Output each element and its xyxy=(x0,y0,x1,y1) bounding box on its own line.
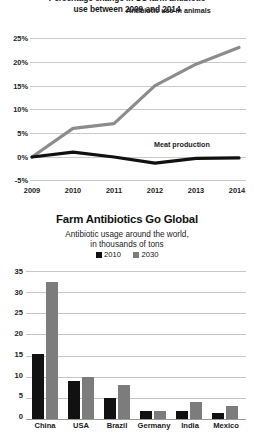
y-tick-0: 0% xyxy=(2,153,28,162)
bar-chart: Farm Antibiotics Go Global Antibiotic us… xyxy=(0,205,254,444)
bar-india-2030 xyxy=(190,402,202,419)
y-tick-5: 5% xyxy=(2,129,28,138)
bar-x-tick-mexico: Mexico xyxy=(213,421,239,430)
bar-y-tick-30: 30 xyxy=(2,288,23,297)
x-tick-2011: 2011 xyxy=(106,186,122,195)
bar-chart-subtitle: Antibiotic usage around the world, in th… xyxy=(0,230,254,250)
bar-chart-bar-groups xyxy=(26,271,246,419)
bar-chart-legend: 2010 2030 xyxy=(0,250,254,259)
x-tick-2014: 2014 xyxy=(229,186,245,195)
line-chart: Percentage change in US farm antibiotic … xyxy=(0,0,254,205)
bar-chart-baseline xyxy=(26,419,246,420)
bar-germany-2030 xyxy=(154,411,166,420)
x-tick-2012: 2012 xyxy=(147,186,163,195)
bar-x-tick-germany: Germany xyxy=(138,421,171,430)
bar-y-tick-10: 10 xyxy=(2,371,23,380)
legend-label-2010: 2010 xyxy=(104,250,121,259)
bar-y-tick-5: 5 xyxy=(2,391,23,400)
legend-swatch-2010 xyxy=(96,252,102,258)
y-tick-10: 10% xyxy=(2,105,28,114)
bar-chart-subtitle-line1: Antibiotic usage around the world, xyxy=(0,230,254,240)
bar-usa-2010 xyxy=(68,381,80,419)
bar-y-tick-20: 20 xyxy=(2,329,23,338)
legend-item-2030: 2030 xyxy=(133,250,158,259)
bar-mexico-2030 xyxy=(226,406,238,419)
legend-item-2010: 2010 xyxy=(96,250,121,259)
series-line-meat-production xyxy=(32,152,239,163)
series-label-meat-production: Meat production xyxy=(154,140,210,149)
bar-y-tick-0: 0 xyxy=(2,412,23,421)
line-chart-series-svg xyxy=(30,38,246,181)
y-tick-neg5: -5% xyxy=(2,176,28,185)
y-tick-15: 15% xyxy=(2,82,28,91)
series-label-antibiotic-use: Antibiotic use in animals xyxy=(126,6,211,15)
bar-x-tick-usa: USA xyxy=(73,421,89,430)
infographic-page: Percentage change in US farm antibiotic … xyxy=(0,0,254,444)
legend-label-2030: 2030 xyxy=(142,250,159,259)
bar-india-2010 xyxy=(176,411,188,420)
bar-brazil-2010 xyxy=(104,398,116,419)
bar-chart-title: Farm Antibiotics Go Global xyxy=(0,213,254,225)
bar-x-tick-brazil: Brazil xyxy=(107,421,128,430)
bar-chart-subtitle-line2: in thousands of tons xyxy=(0,240,254,250)
x-tick-2009: 2009 xyxy=(24,186,40,195)
line-chart-plot: Antibiotic use in animals Meat productio… xyxy=(30,38,246,181)
y-tick-20: 20% xyxy=(2,58,28,67)
bar-chart-x-axis: China USA Brazil Germany India Mexico xyxy=(26,421,246,437)
bar-brazil-2030 xyxy=(118,385,130,419)
bar-y-tick-15: 15 xyxy=(2,350,23,359)
bar-chart-y-axis: 35 30 25 20 15 10 5 0 xyxy=(0,271,23,419)
x-tick-2010: 2010 xyxy=(65,186,81,195)
bar-germany-2010 xyxy=(140,411,152,420)
bar-y-tick-35: 35 xyxy=(2,267,23,276)
line-chart-x-axis: 2009 2010 2011 2012 2013 2014 xyxy=(30,186,246,200)
bar-usa-2030 xyxy=(82,377,94,419)
bar-y-tick-25: 25 xyxy=(2,308,23,317)
y-tick-25: 25% xyxy=(2,34,28,43)
bar-chart-plot xyxy=(26,271,246,419)
bar-x-tick-india: India xyxy=(181,421,199,430)
bar-china-2030 xyxy=(46,282,58,419)
x-tick-2013: 2013 xyxy=(188,186,204,195)
bar-china-2010 xyxy=(32,354,44,420)
line-chart-y-axis: 25% 20% 15% 10% 5% 0% -5% xyxy=(0,38,28,181)
bar-x-tick-china: China xyxy=(34,421,55,430)
legend-swatch-2030 xyxy=(133,252,139,258)
